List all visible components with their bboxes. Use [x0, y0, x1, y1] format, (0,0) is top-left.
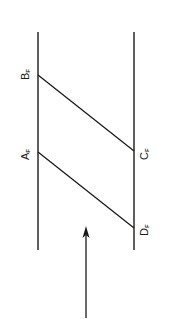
diagonal-a-to-d	[38, 152, 134, 228]
svg-text:DF: DF	[138, 224, 150, 236]
label-c-f: CF	[138, 148, 150, 160]
diagonal-b-to-c	[38, 75, 134, 151]
svg-text:CF: CF	[138, 148, 150, 160]
label-b-f: BF	[19, 69, 31, 80]
diagram-canvas: BF AF CF DF	[0, 0, 170, 319]
label-d-f: DF	[138, 224, 150, 236]
label-a-f: AF	[19, 149, 31, 160]
svg-text:BF: BF	[19, 69, 31, 80]
svg-text:AF: AF	[19, 149, 31, 160]
